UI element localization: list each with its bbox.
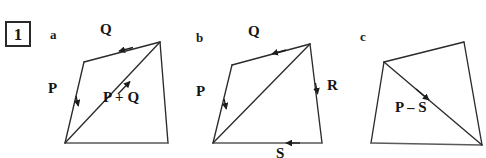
panel-b-diagonal (213, 44, 310, 143)
panel-a-edge-p (65, 62, 84, 143)
panel-b-label-q: Q (248, 24, 260, 39)
panel-c-edge-right (464, 42, 482, 145)
panel-c-edge-top (384, 42, 464, 62)
vector-diagram-figure: 1 (0, 0, 486, 158)
panel-c-letter: c (360, 30, 366, 43)
panel-a-label-p: P (48, 81, 57, 96)
panel-a-arrow-p (76, 96, 78, 106)
panel-b-label-r: R (327, 78, 338, 93)
panel-c-edge-left (371, 62, 384, 143)
panel-b-label-s: S (276, 146, 284, 158)
panel-b-edge-p (213, 65, 232, 143)
panel-b-edge-r (310, 44, 322, 143)
vector-diagrams-canvas (0, 0, 486, 158)
panel-a-letter: a (50, 28, 57, 41)
panel-c-diagram (371, 42, 482, 145)
panel-a-label-q: Q (100, 22, 112, 37)
panel-b-edge-q (232, 44, 310, 65)
panel-b-diagram (213, 44, 322, 143)
panel-c-label-resultant: P – S (395, 100, 427, 115)
panel-b-label-p: P (196, 84, 205, 99)
panel-a-edge-right (160, 42, 168, 143)
panel-b-arrow-q (272, 50, 286, 54)
panel-b-letter: b (196, 31, 203, 44)
panel-a-edge-q (84, 42, 160, 62)
panel-a-label-resultant: P + Q (103, 90, 139, 105)
panel-c-edge-bottom (371, 143, 482, 145)
panel-b-arrow-p (224, 99, 226, 109)
